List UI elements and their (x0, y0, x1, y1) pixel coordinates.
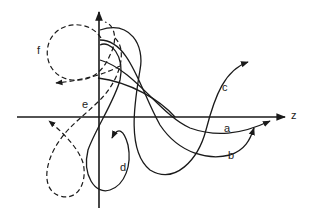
diagram-svg (0, 0, 309, 216)
axis-label-z: z (291, 110, 297, 121)
curve-label-c: c (222, 82, 228, 93)
curve-label-b: b (228, 150, 234, 161)
curve-a (100, 60, 270, 133)
curve-f (47, 22, 114, 80)
curve-b (100, 40, 254, 157)
curve-label-d: d (120, 162, 126, 173)
curve-label-e: e (82, 99, 88, 110)
curve-label-f: f (37, 45, 40, 56)
curve-c (100, 28, 248, 175)
trajectory-diagram: z a b c d e f (0, 0, 309, 216)
curve-label-a: a (224, 123, 230, 134)
